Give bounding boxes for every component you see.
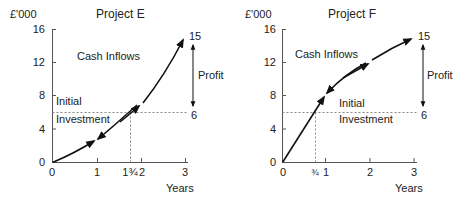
- bottom-value-label: 6: [191, 110, 197, 121]
- top-value-label: 15: [189, 31, 201, 42]
- x-tick: 0: [42, 167, 62, 178]
- y-tick: 8: [256, 90, 276, 101]
- initial-label: Initial: [56, 96, 82, 107]
- x-tick: 2: [360, 167, 380, 178]
- x-axis-label: Years: [166, 183, 194, 194]
- cash-inflow-segment: [283, 97, 325, 163]
- cash-inflow-segment: [372, 39, 411, 60]
- x-tick: 1: [87, 167, 107, 178]
- x-tick: 2: [132, 167, 152, 178]
- y-axis-unit: £'000: [10, 9, 37, 20]
- y-tick: 8: [25, 90, 45, 101]
- chart-title: Project F: [328, 9, 376, 20]
- profit-label: Profit: [427, 70, 453, 81]
- investment-label: Investment: [339, 114, 393, 125]
- cash-inflows-label: Cash Inflows: [77, 51, 140, 62]
- initial-label: Initial: [339, 98, 365, 109]
- cash-inflow-segment: [120, 106, 139, 122]
- profit-label: Profit: [198, 70, 224, 81]
- bottom-value-label: 6: [421, 110, 427, 121]
- x-axis-label: Years: [395, 183, 423, 194]
- y-tick: 12: [25, 57, 45, 68]
- x-tick: 3: [404, 167, 424, 178]
- chart-title: Project E: [96, 9, 145, 20]
- y-tick: 4: [25, 124, 45, 135]
- y-axis-unit: £'000: [245, 9, 272, 20]
- y-tick: 4: [256, 124, 276, 135]
- cash-inflow-segment: [143, 40, 183, 103]
- y-tick: 16: [25, 24, 45, 35]
- investment-label: Investment: [56, 114, 110, 125]
- y-tick: 16: [256, 24, 276, 35]
- top-value-label: 15: [418, 31, 430, 42]
- x-tick: 0: [273, 167, 293, 178]
- x-tick: 3: [175, 167, 195, 178]
- cash-inflow-segment: [343, 64, 368, 78]
- chart-project-f: £'000 Project F 16 12 8 4 0 0 ¾ 1 2 3 Ye…: [233, 0, 466, 203]
- cash-inflow-segment: [53, 141, 95, 163]
- chart-project-e: £'000 Project E 16 12 8 4 0 0 1 1¾ 2 3 Y…: [0, 0, 233, 203]
- cash-inflows-label: Cash Inflows: [295, 49, 358, 60]
- x-tick: 1: [316, 167, 336, 178]
- y-tick: 12: [256, 57, 276, 68]
